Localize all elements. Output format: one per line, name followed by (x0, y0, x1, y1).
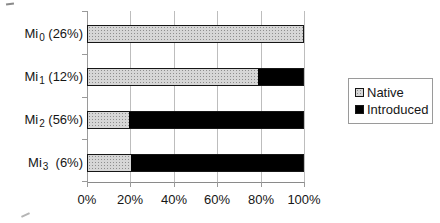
legend: Native Introduced (348, 78, 433, 124)
category-share: (12%) (45, 69, 83, 84)
x-axis-tick (87, 182, 88, 187)
bar-segment-introduced (129, 112, 303, 128)
bar-segment-native (88, 69, 258, 85)
x-axis-tick-label: 20% (117, 192, 143, 207)
x-axis-tick (174, 182, 175, 187)
bar-segment-introduced (258, 69, 303, 85)
y-axis-label: Mi1 (12%) (0, 68, 83, 86)
x-axis-tick (304, 182, 305, 187)
x-axis-tick (261, 182, 262, 187)
y-axis-label: Mi0 (26%) (0, 25, 83, 43)
y-axis-tick (82, 97, 87, 98)
category-share: (56%) (45, 112, 83, 127)
y-axis-tick (82, 139, 87, 140)
gridline (304, 11, 305, 182)
legend-swatch-native (355, 88, 364, 97)
category-prefix: Mi (24, 112, 38, 127)
x-axis-tick (217, 182, 218, 187)
legend-item-native: Native (355, 86, 432, 99)
bar-segment-introduced (131, 155, 303, 171)
plot-area (87, 11, 304, 183)
category-prefix: Mi (24, 26, 38, 41)
y-axis-label: Mi3 (6%) (0, 154, 83, 172)
bar-row (87, 25, 304, 43)
y-axis-label: Mi2 (56%) (0, 111, 83, 129)
x-axis-tick-label: 0% (78, 192, 97, 207)
x-axis-tick-label: 100% (287, 192, 320, 207)
bar-segment-native (88, 26, 303, 42)
category-share: (26%) (45, 26, 83, 41)
x-axis-tick-label: 80% (248, 192, 274, 207)
scan-artifact (6, 2, 14, 5)
category-prefix: Mi (24, 69, 38, 84)
bar-row (87, 111, 304, 129)
x-axis-tick-label: 60% (204, 192, 230, 207)
bar-segment-native (88, 155, 131, 171)
legend-item-introduced: Introduced (355, 103, 432, 116)
stacked-bar-chart: Mi0 (26%) Mi1 (12%) Mi2 (56%) Mi3 (6%) (0, 0, 440, 223)
scan-artifact (21, 212, 30, 218)
bar-row (87, 154, 304, 172)
legend-label-native: Native (367, 86, 404, 99)
legend-swatch-introduced (355, 105, 364, 114)
y-axis-tick (82, 54, 87, 55)
bar-row (87, 68, 304, 86)
bar-segment-native (88, 112, 129, 128)
legend-label-introduced: Introduced (367, 103, 428, 116)
category-share: (6%) (48, 155, 83, 170)
category-prefix: Mi (28, 155, 42, 170)
x-axis-tick (130, 182, 131, 187)
x-axis-tick-label: 40% (161, 192, 187, 207)
y-axis-tick (82, 11, 87, 12)
